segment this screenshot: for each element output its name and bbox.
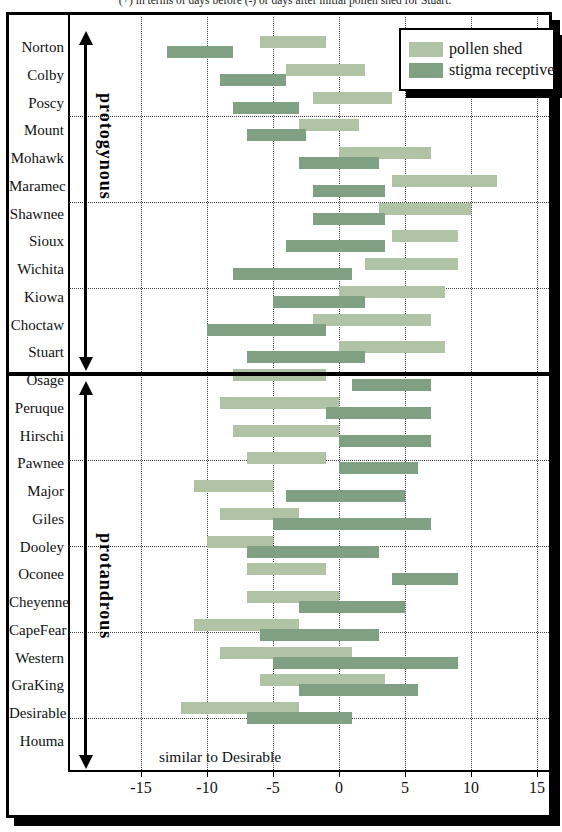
- row-label-hirschi: Hirschi: [9, 427, 64, 445]
- group-divider-line: [9, 372, 549, 376]
- y-gridline: [69, 288, 549, 289]
- stigma-receptive-bar-norton: [167, 46, 233, 58]
- row-label-desirable: Desirable: [9, 704, 64, 722]
- row-label-graking: GraKing: [9, 676, 64, 694]
- stigma-receptive-bar-dooley: [247, 546, 379, 558]
- x-tick-label: -5: [253, 779, 293, 797]
- stigma-receptive-bar-poscy: [233, 102, 299, 114]
- stigma-receptive-swatch: [409, 63, 443, 78]
- arrow-shaft: [84, 38, 87, 364]
- arrow-down-icon: [79, 755, 93, 769]
- row-label-peruque: Peruque: [9, 399, 64, 417]
- stigma-receptive-bar-mohawk: [299, 157, 378, 169]
- row-label-pawnee: Pawnee: [9, 454, 64, 472]
- pollen-shed-swatch: [409, 42, 443, 57]
- legend-label-stigma-receptive: stigma receptive: [449, 61, 554, 79]
- pollen-shed-bar-oconee: [247, 563, 326, 575]
- y-gridline: [69, 116, 549, 117]
- x-tick-mark: [471, 772, 472, 777]
- x-tick-mark: [405, 772, 406, 777]
- x-tick-mark: [537, 772, 538, 777]
- pollen-shed-bar-maramec: [392, 175, 498, 187]
- x-tick-mark: [273, 772, 274, 777]
- x-tick-label: -10: [187, 779, 227, 797]
- figure-caption-text: (+) in terms of days before (-) or days …: [70, 0, 500, 6]
- pollen-shed-bar-pawnee: [247, 452, 326, 464]
- x-tick-mark: [207, 772, 208, 777]
- stigma-receptive-bar-osage: [352, 379, 431, 391]
- stigma-receptive-bar-colby: [220, 74, 286, 86]
- x-tick-label: 0: [319, 779, 359, 797]
- row-label-giles: Giles: [9, 510, 64, 528]
- group-label-protogynous: protogynous: [95, 93, 116, 200]
- arrow-shaft: [84, 388, 87, 762]
- pollen-shed-bar-colby: [286, 64, 365, 76]
- row-label-shawnee: Shawnee: [9, 205, 64, 223]
- stigma-receptive-bar-shawnee: [313, 213, 386, 225]
- row-label-houma: Houma: [9, 732, 64, 750]
- chart-legend: pollen shed stigma receptive: [399, 28, 555, 91]
- stigma-receptive-bar-capefear: [260, 629, 379, 641]
- stigma-receptive-bar-stuart: [247, 351, 366, 363]
- x-tick-label: 15: [517, 779, 557, 797]
- group-label-protandrous: protandrous: [95, 533, 116, 639]
- stigma-receptive-bar-peruque: [326, 407, 432, 419]
- row-label-dooley: Dooley: [9, 538, 64, 556]
- row-label-major: Major: [9, 482, 64, 500]
- row-label-poscy: Poscy: [9, 94, 64, 112]
- protogynous-span-arrow: [79, 31, 93, 371]
- stigma-receptive-bar-major: [286, 490, 405, 502]
- label-column-divider-line: [68, 15, 70, 771]
- stigma-receptive-bar-choctaw: [207, 324, 326, 336]
- stigma-receptive-bar-oconee: [392, 573, 458, 585]
- row-label-norton: Norton: [9, 38, 64, 56]
- row-label-capefear: CapeFear: [9, 621, 64, 639]
- row-label-mount: Mount: [9, 121, 64, 139]
- stigma-receptive-bar-hirschi: [339, 435, 431, 447]
- x-gridline: [537, 17, 538, 770]
- pollen-shed-bar-choctaw: [313, 314, 432, 326]
- row-label-choctaw: Choctaw: [9, 316, 64, 334]
- stigma-receptive-bar-kiowa: [273, 296, 365, 308]
- x-gridline: [471, 17, 472, 770]
- pollen-shed-bar-poscy: [313, 92, 392, 104]
- pollen-shed-bar-hirschi: [233, 425, 339, 437]
- x-gridline: [141, 17, 142, 770]
- legend-row-pollen-shed: pollen shed: [409, 40, 547, 58]
- stigma-receptive-bar-graking: [299, 684, 418, 696]
- figure-caption-clipped: (+) in terms of days before (-) or days …: [0, 0, 562, 10]
- stigma-receptive-bar-pawnee: [339, 462, 418, 474]
- row-label-sioux: Sioux: [9, 232, 64, 250]
- x-tick-label: 5: [385, 779, 425, 797]
- legend-row-stigma-receptive: stigma receptive: [409, 61, 547, 79]
- row-label-cheyenne: Cheyenne: [9, 593, 64, 611]
- row-label-mohawk: Mohawk: [9, 149, 64, 167]
- figure-frame: protogynous protandrous similar to Desir…: [6, 12, 552, 818]
- x-tick-mark: [141, 772, 142, 777]
- stigma-receptive-bar-cheyenne: [299, 601, 405, 613]
- row-label-wichita: Wichita: [9, 260, 64, 278]
- row-label-colby: Colby: [9, 66, 64, 84]
- y-gridline: [69, 202, 549, 203]
- stigma-receptive-bar-sioux: [286, 240, 385, 252]
- chart-plot-area: protogynous protandrous similar to Desir…: [9, 15, 549, 815]
- x-tick-label: 10: [451, 779, 491, 797]
- row-label-stuart: Stuart: [9, 343, 64, 361]
- row-label-oconee: Oconee: [9, 565, 64, 583]
- pollen-shed-bar-wichita: [365, 258, 457, 270]
- houma-annotation: similar to Desirable: [159, 748, 281, 766]
- pollen-shed-bar-norton: [260, 36, 326, 48]
- row-label-western: Western: [9, 649, 64, 667]
- stigma-receptive-bar-maramec: [313, 185, 386, 197]
- pollen-shed-bar-sioux: [392, 230, 458, 242]
- legend-label-pollen-shed: pollen shed: [449, 40, 522, 58]
- stigma-receptive-bar-giles: [273, 518, 431, 530]
- stigma-receptive-bar-desirable: [247, 712, 353, 724]
- row-label-kiowa: Kiowa: [9, 288, 64, 306]
- pollen-shed-bar-mount: [299, 119, 358, 131]
- arrow-down-icon: [79, 357, 93, 371]
- x-tick-mark: [339, 772, 340, 777]
- stigma-receptive-bar-western: [273, 657, 458, 669]
- x-tick-label: -15: [121, 779, 161, 797]
- stigma-receptive-bar-mount: [247, 129, 306, 141]
